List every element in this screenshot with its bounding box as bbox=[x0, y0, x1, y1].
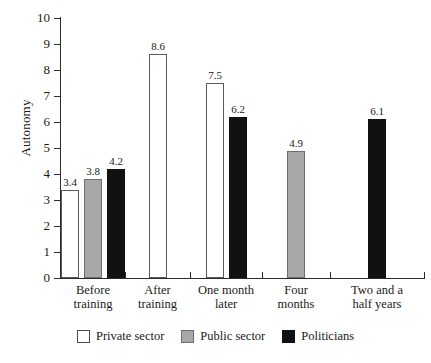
x-axis-group-label-line: Four bbox=[262, 283, 330, 297]
bar-value-label: 3.8 bbox=[77, 166, 109, 177]
x-axis-group-label: Fourmonths bbox=[262, 283, 330, 311]
bar-private-group-1[interactable] bbox=[61, 190, 79, 278]
bar-public-group-4[interactable] bbox=[287, 151, 305, 278]
legend-label: Private sector bbox=[96, 330, 164, 343]
bar-politicians-group-5[interactable] bbox=[368, 119, 386, 278]
bar-value-label: 4.2 bbox=[100, 156, 132, 167]
x-axis-separator bbox=[190, 272, 191, 279]
x-axis-separator bbox=[330, 272, 331, 279]
x-axis-group-label-line: half years bbox=[330, 297, 424, 311]
legend-swatch-public-icon bbox=[181, 330, 194, 343]
bar-value-label: 3.4 bbox=[54, 177, 86, 188]
legend-label: Public sector bbox=[200, 330, 265, 343]
bar-value-label: 6.1 bbox=[361, 106, 393, 117]
x-axis-group-label: Aftertraining bbox=[125, 283, 190, 311]
x-axis-group-label-line: After bbox=[125, 283, 190, 297]
bar-value-label: 4.9 bbox=[280, 138, 312, 149]
x-axis-separator bbox=[125, 272, 126, 279]
x-axis-group-label: Two and ahalf years bbox=[330, 283, 424, 311]
x-axis-group-label-line: Two and a bbox=[330, 283, 424, 297]
autonomy-bar-chart: Autonomy 109876543210 3.43.84.28.67.56.2… bbox=[0, 0, 431, 363]
x-axis-group-label-line: training bbox=[125, 297, 190, 311]
chart-legend: Private sectorPublic sectorPoliticians bbox=[0, 330, 431, 343]
x-axis-group-label-line: months bbox=[262, 297, 330, 311]
x-axis-line bbox=[60, 278, 425, 279]
legend-label: Politicians bbox=[301, 330, 354, 343]
legend-item-politicians[interactable]: Politicians bbox=[282, 330, 354, 343]
x-axis-group-label-line: training bbox=[61, 297, 125, 311]
bar-value-label: 8.6 bbox=[142, 41, 174, 52]
bar-politicians-group-1[interactable] bbox=[107, 169, 125, 278]
bar-value-label: 6.2 bbox=[222, 104, 254, 115]
legend-item-public[interactable]: Public sector bbox=[181, 330, 265, 343]
x-axis-group-label-line: Before bbox=[61, 283, 125, 297]
x-axis-group-label-line: One month bbox=[190, 283, 262, 297]
bar-politicians-group-3[interactable] bbox=[229, 117, 247, 278]
x-axis-group-label-line: later bbox=[190, 297, 262, 311]
bar-public-group-1[interactable] bbox=[84, 179, 102, 278]
bar-value-label: 7.5 bbox=[199, 70, 231, 81]
x-axis-separator bbox=[424, 272, 425, 279]
bar-private-group-2[interactable] bbox=[149, 54, 167, 278]
legend-swatch-politicians-icon bbox=[282, 330, 295, 343]
x-axis-separator bbox=[262, 272, 263, 279]
legend-swatch-private-icon bbox=[77, 330, 90, 343]
plot-area: 3.43.84.28.67.56.24.96.1 bbox=[0, 0, 431, 279]
x-axis-group-label: Beforetraining bbox=[61, 283, 125, 311]
x-axis-group-label: One monthlater bbox=[190, 283, 262, 311]
legend-item-private[interactable]: Private sector bbox=[77, 330, 164, 343]
